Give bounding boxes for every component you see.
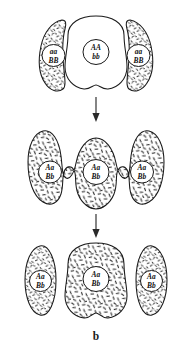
bottom-center-genotype-allele-b: Bb [91, 279, 101, 288]
arrow-top-to-middle-head [92, 113, 99, 122]
figure-container: aa BB AA bb aa BB Aa Bb Aa Bb Aa Bb [0, 0, 192, 350]
bottom-right-genotype-allele-a: Aa [146, 272, 156, 281]
arrow-middle-to-bottom-head [92, 229, 99, 238]
top-left-genotype-allele-b: BB [47, 56, 58, 65]
figure-caption: b [93, 330, 99, 342]
bottom-left-genotype-allele-a: Aa [35, 272, 45, 281]
stage-middle: Aa Bb Aa Bb Aa Bb [28, 131, 164, 209]
top-right-genotype-allele-b: BB [132, 56, 143, 65]
stage-top: aa BB AA bb aa BB [39, 16, 152, 91]
top-left-genotype-allele-a: aa [50, 47, 58, 56]
middle-center-genotype-allele-a: Aa [91, 163, 101, 172]
genetics-cell-fusion-diagram: aa BB AA bb aa BB Aa Bb Aa Bb Aa Bb [0, 0, 192, 350]
arrow-middle-to-bottom [92, 214, 99, 238]
bottom-left-genotype-allele-b: Bb [35, 281, 45, 290]
middle-center-genotype-allele-b: Bb [91, 172, 101, 181]
middle-right-genotype-allele-b: Bb [137, 172, 147, 181]
middle-left-genotype-allele-b: Bb [45, 172, 55, 181]
stage-bottom: Aa Bb Aa Bb Aa Bb [25, 243, 167, 318]
top-right-genotype-allele-a: aa [135, 47, 143, 56]
middle-right-genotype-allele-a: Aa [137, 163, 147, 172]
top-center-genotype-allele-a: AA [90, 43, 101, 52]
arrow-top-to-middle [92, 97, 99, 122]
bottom-center-genotype-allele-a: Aa [91, 270, 101, 279]
middle-left-genotype-allele-a: Aa [45, 163, 55, 172]
top-center-genotype-allele-b: bb [92, 52, 100, 61]
bottom-right-genotype-allele-b: Bb [146, 281, 156, 290]
